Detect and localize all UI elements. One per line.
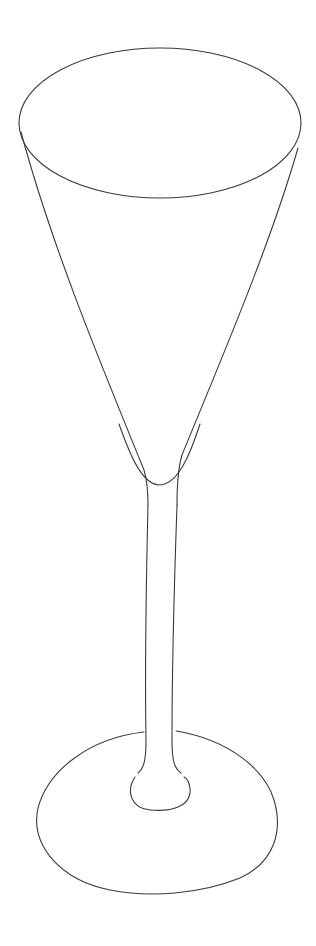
drawing-canvas <box>0 0 316 946</box>
liquid-line <box>119 424 200 485</box>
stem-knot <box>130 777 190 810</box>
champagne-flute-drawing <box>0 0 316 946</box>
rim-ellipse <box>19 48 301 198</box>
bowl-right-side <box>177 148 298 505</box>
foot-ellipse <box>37 731 278 894</box>
stem-right <box>172 505 181 773</box>
